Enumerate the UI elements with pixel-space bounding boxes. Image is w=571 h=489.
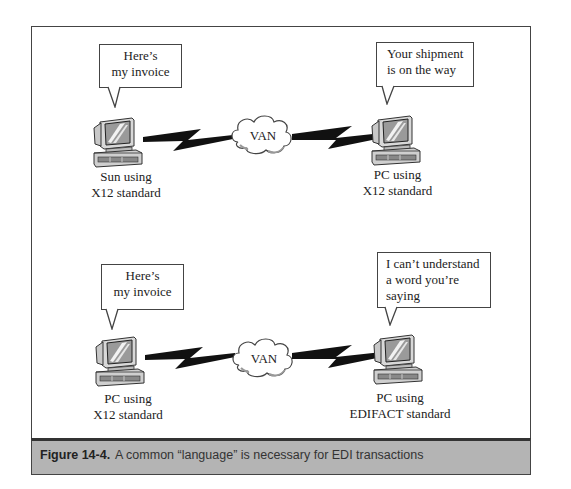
figure-number: Figure 14-4. [40, 448, 110, 462]
speech-bubble-sender: Here’s my invoice [99, 44, 182, 88]
van-cloud: VAN [228, 112, 298, 160]
bubble-tail [380, 85, 396, 105]
bubble-line: my invoice [105, 64, 176, 80]
computer-icon [94, 335, 148, 389]
label-line: PC using [82, 391, 174, 407]
label-line: EDIFACT standard [340, 406, 460, 422]
computer-icon [92, 116, 146, 170]
bubble-line: saying [386, 288, 485, 304]
speech-bubble-receiver: I can’t understand a word you’re saying [377, 252, 491, 308]
bubble-line: Your shipment [387, 46, 468, 62]
bubble-line: is on the way [387, 62, 468, 78]
bubble-tail [106, 86, 122, 108]
bubble-line: a word you’re [386, 272, 485, 288]
computer-icon [372, 333, 426, 387]
figure-caption-bar: Figure 14-4. A common “language” is nece… [31, 438, 531, 475]
sender-label: PC using X12 standard [82, 391, 174, 423]
computer-icon [370, 114, 424, 168]
bubble-line: Here’s [105, 48, 176, 64]
bubble-line: Here’s [107, 268, 178, 284]
network-label: VAN [229, 351, 299, 367]
figure-caption: A common “language” is necessary for EDI… [115, 448, 423, 462]
receiver-label: PC using X12 standard [350, 167, 445, 199]
bubble-line: my invoice [107, 284, 178, 300]
bubble-tail [383, 306, 399, 326]
label-line: X12 standard [350, 183, 445, 199]
lightning-bolt-icon [143, 126, 233, 154]
label-line: X12 standard [82, 407, 174, 423]
label-line: X12 standard [80, 185, 172, 201]
speech-bubble-sender: Here’s my invoice [101, 264, 184, 310]
lightning-bolt-icon [292, 342, 382, 372]
label-line: PC using [340, 390, 460, 406]
receiver-label: PC using EDIFACT standard [340, 390, 460, 422]
label-line: Sun using [80, 169, 172, 185]
sender-label: Sun using X12 standard [80, 169, 172, 201]
label-line: PC using [350, 167, 445, 183]
bubble-line: I can’t understand [386, 256, 485, 272]
network-label: VAN [228, 128, 298, 144]
van-cloud: VAN [229, 335, 299, 383]
lightning-bolt-icon [292, 123, 382, 153]
lightning-bolt-icon [145, 344, 235, 372]
speech-bubble-receiver: Your shipment is on the way [376, 42, 474, 87]
bubble-tail [104, 308, 120, 330]
